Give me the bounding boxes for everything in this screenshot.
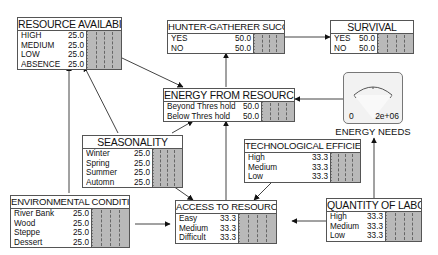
node-environmental-conditions[interactable]: ENVIRONMENTAL CONDITIONS River Bank25.0 …: [10, 195, 130, 248]
node-resource-availability[interactable]: RESOURCE AVAILABILITY HIGH25.0 MEDIUM25.…: [17, 17, 122, 70]
node-title: HUNTER-GATHERER SUCCESS: [168, 21, 284, 34]
node-access-to-resources[interactable]: ACCESS TO RESOURCES Easy33.3 Medium33.3 …: [175, 200, 277, 244]
belief-bars: [261, 102, 294, 121]
state-row[interactable]: HIGH25.0: [21, 31, 86, 41]
node-title: ENVIRONMENTAL CONDITIONS: [11, 196, 129, 209]
belief-bars: [385, 212, 421, 241]
belief-bars: [330, 153, 360, 182]
energy-needs-label: ENERGY NEEDS: [333, 126, 413, 137]
node-title: SURVIVAL: [331, 21, 413, 34]
state-row[interactable]: Winter25.0: [86, 149, 152, 159]
state-row[interactable]: Summer25.0: [86, 168, 152, 178]
state-row[interactable]: NO50.0: [334, 44, 377, 54]
gauge-min-label: 0: [349, 111, 354, 121]
state-row[interactable]: MEDIUM25.0: [21, 41, 86, 51]
state-row[interactable]: ABSENCE25.0: [21, 60, 86, 70]
node-hunter-gatherer-success[interactable]: HUNTER-GATHERER SUCCESS YES50.0 NO50.0: [167, 20, 285, 54]
node-title: QUANTITY OF LABOR: [327, 199, 421, 212]
state-row[interactable]: Medium33.3: [179, 224, 238, 234]
node-title: SEASONALITY: [83, 136, 182, 149]
state-row[interactable]: Automn25.0: [86, 178, 152, 188]
state-row[interactable]: Medium33.3: [248, 163, 330, 173]
state-row[interactable]: Low33.3: [248, 172, 330, 182]
belief-bars: [91, 209, 129, 247]
state-row[interactable]: Easy33.3: [179, 214, 238, 224]
state-row[interactable]: High33.3: [248, 153, 330, 163]
belief-bars: [238, 214, 276, 243]
gauge-max-label: 2e+06: [375, 111, 399, 121]
node-quantity-of-labor[interactable]: QUANTITY OF LABOR High33.3 Medium33.3 Lo…: [326, 198, 422, 242]
state-row[interactable]: YES50.0: [171, 34, 253, 44]
state-row[interactable]: NO50.0: [171, 44, 253, 54]
link-seasonality-energy: [172, 121, 193, 133]
state-row[interactable]: Below Thres hold50.0: [167, 112, 261, 122]
node-title: TECHNOLOGICAL EFFICIENCY: [245, 140, 360, 153]
state-row[interactable]: Beyond Thres hold50.0: [167, 102, 261, 112]
state-row[interactable]: Steppe25.0: [14, 228, 91, 238]
state-row[interactable]: Difficult33.3: [179, 233, 238, 243]
node-technological-efficiency[interactable]: TECHNOLOGICAL EFFICIENCY High33.3 Medium…: [244, 139, 361, 183]
belief-bars: [86, 31, 121, 69]
node-title: ACCESS TO RESOURCES: [176, 201, 276, 214]
state-row[interactable]: YES50.0: [334, 34, 377, 44]
node-seasonality[interactable]: SEASONALITY Winter25.0 Spring25.0 Summer…: [82, 135, 183, 188]
link-resource-availability-energy: [122, 58, 183, 87]
node-energy-from-resources[interactable]: ENERGY FROM RESOURCES Beyond Thres hold5…: [163, 88, 295, 122]
state-row[interactable]: High33.3: [330, 212, 385, 222]
state-row[interactable]: Low33.3: [330, 231, 385, 241]
link-seasonality-resource-availability: [84, 66, 118, 133]
node-title: ENERGY FROM RESOURCES: [164, 89, 294, 102]
state-row[interactable]: Wood25.0: [14, 219, 91, 229]
state-row[interactable]: Dessert25.0: [14, 238, 91, 248]
link-seasonality-access: [173, 186, 193, 200]
node-survival[interactable]: SURVIVAL YES50.0 NO50.0: [330, 20, 414, 54]
belief-bars: [152, 149, 182, 187]
state-row[interactable]: River Bank25.0: [14, 209, 91, 219]
node-title: RESOURCE AVAILABILITY: [18, 18, 121, 31]
state-row[interactable]: Medium33.3: [330, 222, 385, 232]
energy-needs-gauge[interactable]: 0 2e+06: [343, 72, 403, 124]
state-row[interactable]: Spring25.0: [86, 159, 152, 169]
state-row[interactable]: LOW25.0: [21, 50, 86, 60]
belief-bars: [377, 34, 413, 53]
belief-bars: [253, 34, 284, 53]
